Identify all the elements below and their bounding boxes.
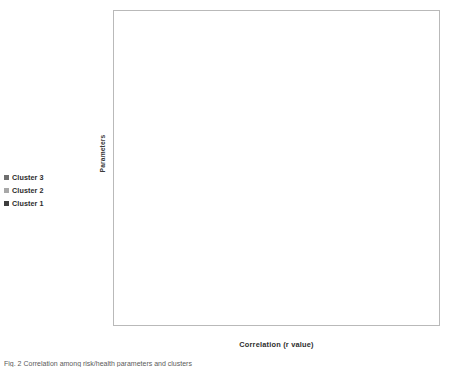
chart-legend: Cluster 3Cluster 2Cluster 1	[4, 172, 68, 211]
figure-caption: Fig. 2 Correlation among risk/health par…	[4, 360, 304, 367]
legend-item-label: Cluster 2	[12, 186, 44, 195]
x-axis-title: Correlation (r value)	[113, 340, 440, 349]
legend-item-label: Cluster 3	[12, 173, 44, 182]
legend-item[interactable]: Cluster 3	[4, 172, 68, 183]
figure-container: Cluster 3Cluster 2Cluster 1 Parameters C…	[0, 0, 456, 378]
legend-item-label: Cluster 1	[12, 199, 44, 208]
legend-swatch-icon	[4, 175, 9, 180]
legend-item[interactable]: Cluster 2	[4, 185, 68, 196]
legend-swatch-icon	[4, 188, 9, 193]
plot-area	[113, 10, 440, 326]
legend-swatch-icon	[4, 201, 9, 206]
y-axis-title: Parameters	[99, 124, 106, 184]
x-axis-ticks	[113, 328, 440, 340]
legend-item[interactable]: Cluster 1	[4, 198, 68, 209]
